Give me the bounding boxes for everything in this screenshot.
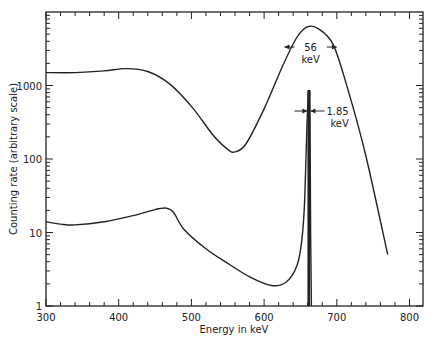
arrowhead-icon — [310, 109, 315, 114]
fwhm-185-value: 1.85 — [326, 106, 348, 117]
y-tick-label: 1000 — [17, 81, 42, 92]
x-tick-label: 500 — [182, 312, 201, 323]
spectrum-chart: 300400500600700800 1101001000 56keV1.85k… — [0, 0, 435, 349]
fwhm-185-unit: keV — [330, 118, 349, 129]
fwhm-56-value: 56 — [304, 42, 317, 53]
y-axis-tick-labels: 1101001000 — [17, 81, 42, 313]
y-tick-label: 1 — [36, 301, 42, 312]
arrowhead-icon — [284, 45, 289, 50]
annotations: 56keV1.85keV — [284, 42, 349, 129]
data-series — [46, 26, 388, 306]
x-tick-label: 600 — [255, 312, 274, 323]
sharp-peak-spike — [307, 91, 310, 306]
y-axis-title: Counting rate (arbitrary scale) — [8, 83, 19, 235]
x-tick-label: 700 — [327, 312, 346, 323]
x-axis-ticks — [46, 12, 410, 306]
fwhm-56-unit: keV — [301, 54, 320, 65]
x-tick-label: 400 — [109, 312, 128, 323]
x-tick-label: 800 — [400, 312, 419, 323]
broad-peak-curve — [46, 26, 388, 255]
y-tick-label: 10 — [29, 228, 42, 239]
sharp-peak-curve — [46, 91, 311, 306]
x-tick-label: 300 — [36, 312, 55, 323]
x-axis-tick-labels: 300400500600700800 — [36, 312, 419, 323]
arrowhead-icon — [302, 109, 307, 114]
y-tick-label: 100 — [23, 154, 42, 165]
x-axis-title: Energy in keV — [200, 324, 269, 335]
